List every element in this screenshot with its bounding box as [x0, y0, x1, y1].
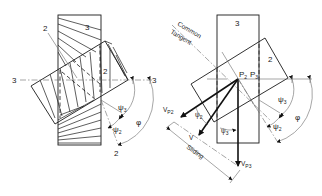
psi3-inner-label: ψ3 [221, 127, 229, 136]
gear-3-label: 3 [85, 23, 90, 32]
sliding-ext-left [166, 122, 174, 128]
axis-2-label: 2 [114, 149, 119, 158]
psi2-label: ψ2 [113, 125, 122, 135]
gear-2-outline [31, 41, 128, 124]
axis-2-line [101, 100, 118, 144]
gear-3-label-right: 3 [235, 19, 240, 28]
sliding-label: Sliding [185, 143, 206, 161]
gear-2-leader-label: 2 [43, 24, 48, 33]
phi-label-right: φ [295, 113, 300, 122]
vp3-label: VP3 [241, 160, 252, 169]
sliding-ext-right [230, 170, 240, 183]
gear-2-label-right: 2 [268, 55, 273, 64]
vp2-label: VP2 [163, 106, 174, 115]
gear-velocity-diagram: 3 3 3 2 2 2 ψ3 ψ2 φ 3 2 Common Tangent [0, 0, 322, 196]
p3-label: P3 [250, 70, 258, 80]
psi3-label: ψ3 [118, 103, 127, 113]
p2-label: P2 [239, 70, 247, 80]
gear-3-hatching [58, 18, 101, 143]
psi2-label-right: ψ2 [273, 122, 282, 132]
phi-label: φ [136, 118, 141, 127]
psi-reference-line-right [259, 100, 280, 113]
gear-2-outline-right [191, 38, 288, 122]
axis-3-left-label: 3 [12, 76, 17, 85]
gear-2-inner-label: 2 [103, 67, 108, 76]
axis-3-right-label: 3 [152, 76, 157, 85]
gear-2-leader-line [48, 33, 77, 78]
vp2-vector [181, 79, 238, 117]
gear-2-hatching [40, 44, 110, 118]
phi-arc-right [277, 79, 312, 142]
psi3-label-right: ψ3 [278, 95, 287, 105]
right-diagram: 3 2 Common Tangent P2 P3 VP2 V VP3 ψ2 ψ3 [163, 15, 312, 183]
left-diagram: 3 3 3 2 2 2 ψ3 ψ2 φ [12, 15, 157, 158]
